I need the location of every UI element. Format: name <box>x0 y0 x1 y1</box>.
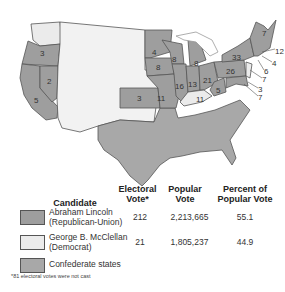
percent-value: 44.9 <box>225 237 265 247</box>
label-massachusetts: 12 <box>275 47 284 56</box>
us-election-map: 3 2 5 3 4 8 8 8 11 16 13 21 11 5 26 33 7… <box>0 0 285 190</box>
label-minnesota: 4 <box>152 48 157 57</box>
state-washington <box>31 22 62 46</box>
swatch-lincoln <box>20 210 45 225</box>
label-maine: 7 <box>262 29 267 38</box>
confederate-label: Confederate states <box>49 260 121 270</box>
header-popular-line1: Popular <box>160 184 210 194</box>
legend-row-lincoln: Abraham Lincoln (Republican-Union) 212 2… <box>20 208 280 232</box>
candidate-name: Abraham Lincoln (Republican-Union) <box>49 208 122 227</box>
label-ohio: 21 <box>203 76 212 85</box>
label-oregon: 3 <box>40 49 45 58</box>
label-michigan: 8 <box>194 59 199 68</box>
header-electoral: Electoral Vote* <box>115 184 160 204</box>
swatch-mcclellan <box>20 235 45 250</box>
header-percent-line1: Percent of <box>210 184 280 194</box>
legend-row-mcclellan: George B. McClellan (Democrat) 21 1,805,… <box>20 233 280 257</box>
label-illinois: 16 <box>175 82 184 91</box>
header-electoral-line1: Electoral <box>115 184 160 194</box>
label-rhode-island: 4 <box>272 59 277 68</box>
header-percent: Percent of Popular Vote <box>210 184 280 204</box>
electoral-value: 212 <box>125 212 155 222</box>
header-percent-line2: Popular Vote <box>210 194 280 204</box>
label-maryland: 7 <box>258 93 263 102</box>
swatch-confederate <box>20 258 45 273</box>
label-nevada: 2 <box>47 77 52 86</box>
candidate-party: (Democrat) <box>49 243 127 253</box>
footnote: *81 electoral votes were not cast <box>11 273 91 279</box>
state-new-jersey <box>246 62 252 78</box>
candidate-name: George B. McClellan (Democrat) <box>49 233 127 252</box>
label-west-virginia: 5 <box>216 86 221 95</box>
label-iowa: 8 <box>156 63 161 72</box>
header-popular-line2: Vote <box>160 194 210 204</box>
label-kansas: 3 <box>137 94 142 103</box>
label-missouri: 11 <box>157 94 166 103</box>
western-territories <box>57 22 158 132</box>
popular-value: 1,805,237 <box>162 237 217 247</box>
label-wisconsin: 8 <box>172 55 177 64</box>
state-new-england <box>250 20 276 56</box>
label-indiana: 13 <box>188 80 197 89</box>
candidate-party: (Republican-Union) <box>49 218 122 228</box>
label-kentucky: 11 <box>196 95 205 104</box>
electoral-value: 21 <box>125 237 155 247</box>
header-electoral-line2: Vote* <box>115 194 160 204</box>
state-maryland <box>226 76 248 88</box>
label-pennsylvania: 26 <box>226 67 235 76</box>
popular-value: 2,213,665 <box>162 212 217 222</box>
label-new-york: 33 <box>232 53 241 62</box>
label-california: 5 <box>34 96 39 105</box>
label-new-jersey: 7 <box>262 75 267 84</box>
header-popular: Popular Vote <box>160 184 210 204</box>
percent-value: 55.1 <box>225 212 265 222</box>
